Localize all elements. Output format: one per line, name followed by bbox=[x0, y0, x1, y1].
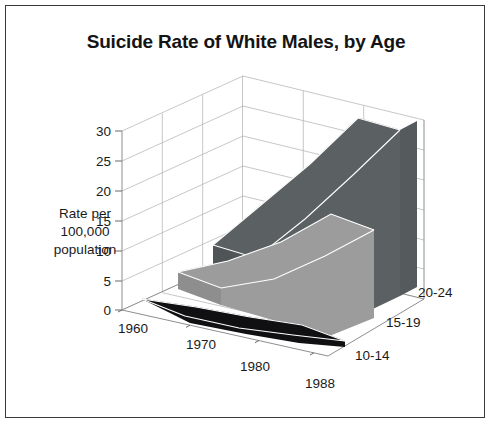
chart-canvas: Suicide Rate of White Males, by Age bbox=[0, 0, 492, 425]
chart-figure: Suicide Rate of White Males, by Age bbox=[0, 0, 492, 425]
y-tick-30: 30 bbox=[96, 124, 111, 139]
series-20-24-right-cap bbox=[400, 121, 417, 296]
x-tick-1980: 1980 bbox=[240, 359, 270, 374]
series-label-20-24: 20-24 bbox=[418, 285, 453, 300]
chart-title: Suicide Rate of White Males, by Age bbox=[87, 31, 406, 52]
y-tick-20: 20 bbox=[96, 184, 111, 199]
y-tick-0: 0 bbox=[103, 303, 111, 318]
x-tick-1960: 1960 bbox=[118, 321, 148, 336]
y-tick-25: 25 bbox=[96, 154, 111, 169]
y-axis-title-line3: population bbox=[54, 242, 116, 257]
y-axis-title-line1: Rate per bbox=[59, 206, 111, 221]
y-axis-title-line2: 100,000 bbox=[61, 224, 110, 239]
series-label-15-19: 15-19 bbox=[386, 315, 421, 330]
y-tick-5: 5 bbox=[103, 274, 111, 289]
x-tick-1988: 1988 bbox=[305, 376, 335, 391]
series-label-10-14: 10-14 bbox=[355, 348, 390, 363]
y-axis: 30 25 20 15 10 5 0 Rate per 100,000 popu… bbox=[54, 124, 122, 318]
x-tick-1970: 1970 bbox=[186, 337, 216, 352]
